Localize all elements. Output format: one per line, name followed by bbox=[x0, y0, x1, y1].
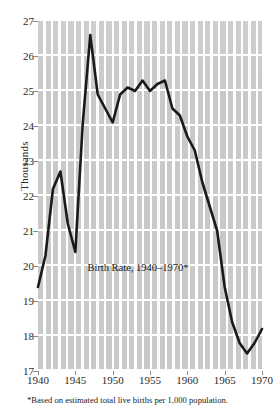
birth-rate-chart-figure: Thousands 1718192021222324252627 1940194… bbox=[0, 0, 277, 415]
plot-area bbox=[38, 21, 262, 371]
x-axis-tick-mark bbox=[187, 371, 188, 375]
y-axis-tick-label: 25 bbox=[0, 85, 34, 97]
birth-rate-line-series bbox=[38, 21, 262, 371]
y-axis-tick-label: 20 bbox=[0, 260, 34, 272]
y-axis-tick-label: 19 bbox=[0, 295, 34, 307]
y-axis-tick-label: 27 bbox=[0, 15, 34, 27]
x-axis-tick-mark bbox=[150, 371, 151, 375]
y-axis-tick-label: 18 bbox=[0, 330, 34, 342]
chart-footnote: *Based on estimated total live births pe… bbox=[27, 395, 228, 405]
y-axis-tick-label: 23 bbox=[0, 155, 34, 167]
y-axis-tick-label: 24 bbox=[0, 120, 34, 132]
x-axis-tick-mark bbox=[225, 371, 226, 375]
y-axis-tick-label: 26 bbox=[0, 50, 34, 62]
x-axis-tick-mark bbox=[262, 371, 263, 375]
y-axis-tick-label: 22 bbox=[0, 190, 34, 202]
x-axis-tick-label: 1970 bbox=[239, 374, 277, 386]
y-axis-tick-label: 21 bbox=[0, 225, 34, 237]
x-axis-tick-mark bbox=[75, 371, 76, 375]
x-axis-tick-mark bbox=[38, 371, 39, 375]
x-axis-tick-mark bbox=[113, 371, 114, 375]
